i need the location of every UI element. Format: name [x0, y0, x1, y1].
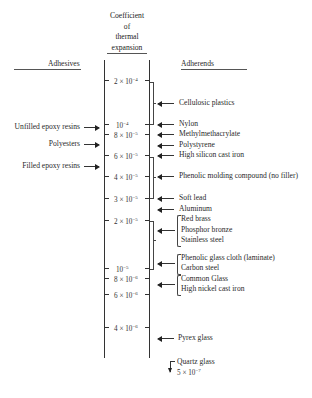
pyrex-label: Pyrex glass — [178, 333, 213, 342]
tick-label: 8 × 10−5 — [114, 129, 138, 141]
tick-label-exp: −5 — [132, 217, 137, 222]
down-arrow-icon — [168, 368, 172, 373]
range-brace-phenolic — [150, 157, 154, 199]
tick-mark-left — [105, 294, 109, 295]
tick-label-base: 2 × 10 — [114, 218, 132, 226]
adherend-label: Aluminum — [179, 204, 212, 213]
adherend-group-item: Red brass — [181, 214, 211, 223]
tick-label: 4 × 10−5 — [114, 171, 138, 183]
tick-mark-left — [105, 155, 109, 156]
tick-label-base: 4 × 10 — [114, 174, 132, 182]
tick-label-exp: −6 — [132, 291, 137, 296]
tick-mark-right — [145, 220, 149, 221]
adherend-group-item: Carbon steel — [181, 263, 219, 272]
tick-mark-left — [105, 268, 109, 269]
tick-label: 3 × 10−5 — [114, 193, 138, 205]
tick-label-base: 2 × 10 — [114, 78, 132, 86]
tick-mark-left — [105, 198, 109, 199]
adherend-arrow — [158, 145, 174, 146]
tick-mark-right — [145, 278, 149, 279]
tick-label: 6 × 10−5 — [114, 150, 138, 162]
adherend-label: High silicon cast iron — [179, 150, 244, 159]
adhesive-label: Filled epoxy resins — [22, 161, 80, 170]
tick-label-base: 6 × 10 — [114, 153, 132, 161]
adherend-arrow — [158, 103, 174, 104]
tick-label: 2 × 10−4 — [114, 75, 138, 87]
adhesive-arrow — [84, 127, 99, 128]
tick-mark-right — [145, 176, 149, 177]
tick-label-exp: −5 — [132, 173, 137, 178]
axis-title-line: thermal — [96, 32, 158, 43]
adherends-underline — [181, 69, 247, 70]
adherend-arrow — [158, 155, 174, 156]
adherend-group-item: Stainless steel — [181, 235, 224, 244]
adherend-label: Methylmethacrylate — [179, 129, 240, 138]
tick-label-exp: −5 — [123, 265, 128, 270]
tick-mark-right — [145, 327, 149, 328]
tick-label-exp: −4 — [132, 77, 137, 82]
tick-label-exp: −6 — [132, 324, 137, 329]
tick-mark-right — [145, 198, 149, 199]
tick-mark-right — [145, 80, 149, 81]
adherend-label: Phenolic molding compound (no filler) — [179, 171, 298, 180]
tick-mark-right — [145, 294, 149, 295]
adhesives-underline — [14, 69, 81, 70]
tick-mark-left — [105, 134, 109, 135]
adhesive-label: Polyesters — [49, 139, 80, 148]
pyrex-arrow — [158, 338, 174, 339]
tick-mark-left — [105, 124, 109, 125]
tick-label-base: 3 × 10 — [114, 196, 132, 204]
group-arrow — [158, 230, 175, 231]
adherend-arrow — [158, 124, 174, 125]
tick-mark-right — [145, 155, 149, 156]
adhesive-arrow — [84, 144, 99, 145]
axis-title-line: expansion — [96, 43, 158, 54]
adherend-label: Cellulosic plastics — [179, 98, 234, 107]
quartz-value: 5 × 10−7 — [177, 366, 201, 378]
tick-label-exp: −5 — [132, 152, 137, 157]
tick-mark-left — [105, 176, 109, 177]
tick-label: 8 × 10−6 — [114, 273, 138, 285]
tick-mark-right — [145, 268, 149, 269]
tick-label-exp: −6 — [132, 275, 137, 280]
tick-label-base: 4 × 10 — [114, 325, 132, 333]
adherend-arrow — [158, 198, 174, 199]
adherend-arrow — [158, 176, 174, 177]
scale-left-line — [104, 60, 105, 358]
adherend-group-item: Phenolic glass cloth (laminate) — [181, 253, 275, 262]
range-brace-brass — [150, 221, 154, 270]
tick-mark-left — [105, 220, 109, 221]
tick-label-exp: −5 — [132, 195, 137, 200]
tick-mark-left — [105, 327, 109, 328]
axis-title-line: of — [96, 22, 158, 33]
quartz-label: Quartz glass — [177, 357, 215, 366]
tick-mark-right — [145, 124, 149, 125]
tick-label: 6 × 10−6 — [114, 289, 138, 301]
adherend-group-item: High nickel cast iron — [181, 284, 244, 293]
adherend-label: Nylon — [179, 119, 198, 128]
tick-mark-left — [105, 80, 109, 81]
group-arrow — [158, 284, 175, 285]
tick-label-base: 6 × 10 — [114, 292, 132, 300]
adhesive-arrow — [84, 166, 99, 167]
quartz-value-exp: −7 — [195, 368, 200, 373]
tick-label: 4 × 10−6 — [114, 322, 138, 334]
axis-title-underline — [107, 53, 147, 54]
adherend-arrow — [158, 134, 174, 135]
tick-label: 2 × 10−5 — [114, 215, 138, 227]
adhesives-heading: Adhesives — [48, 59, 80, 68]
adherend-label: Polystyrene — [179, 140, 215, 149]
brace-nib — [153, 103, 156, 104]
axis-title-line: Coefficient — [96, 11, 158, 22]
tick-label-base: 8 × 10 — [114, 132, 132, 140]
tick-mark-left — [105, 278, 109, 279]
adherend-arrow — [158, 209, 174, 210]
brace-nib — [153, 240, 156, 241]
tick-label-exp: −4 — [123, 121, 128, 126]
adherend-group-item: Common Glass — [181, 274, 228, 283]
adherend-group-item: Phosphor bronze — [181, 225, 232, 234]
tick-mark-right — [145, 134, 149, 135]
tick-label-base: 8 × 10 — [114, 276, 132, 284]
adhesive-label: Unfilled epoxy resins — [15, 122, 80, 131]
adherend-label: Soft lead — [179, 193, 206, 202]
